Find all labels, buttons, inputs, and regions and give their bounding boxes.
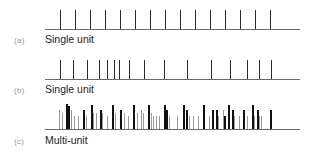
- spike: [247, 60, 248, 79]
- panel-label: Multi-unit: [45, 134, 88, 146]
- spike: [164, 60, 165, 79]
- spike: [247, 116, 248, 129]
- spike: [270, 10, 271, 29]
- spike: [133, 105, 135, 129]
- spike: [71, 110, 72, 129]
- spike: [86, 116, 87, 129]
- panel-tag: (c): [14, 137, 24, 146]
- spike: [187, 60, 188, 79]
- spike: [102, 113, 103, 129]
- spike: [143, 113, 144, 129]
- spike: [209, 116, 210, 129]
- spike: [259, 60, 260, 79]
- spike: [96, 113, 97, 129]
- spike: [255, 10, 256, 29]
- spike: [225, 10, 226, 29]
- spike: [177, 116, 178, 129]
- spike: [115, 113, 116, 129]
- spike: [166, 110, 168, 129]
- spike: [99, 60, 100, 79]
- spike: [105, 10, 106, 29]
- spike: [153, 116, 154, 129]
- spike: [112, 105, 114, 129]
- spike: [218, 116, 219, 129]
- spike: [78, 116, 79, 129]
- spike: [119, 60, 120, 79]
- spike: [93, 113, 94, 129]
- spike: [211, 60, 212, 79]
- spike: [74, 116, 75, 129]
- spike: [212, 110, 214, 129]
- spike: [203, 105, 205, 129]
- spike: [169, 116, 170, 129]
- spike: [271, 60, 272, 79]
- baseline-axis: [45, 29, 300, 30]
- spike: [124, 113, 125, 129]
- spike: [107, 116, 108, 129]
- spike: [243, 110, 245, 129]
- spike: [150, 10, 151, 29]
- spike: [228, 105, 230, 129]
- spike: [128, 116, 129, 129]
- baseline-axis: [45, 79, 300, 80]
- spike: [137, 113, 138, 129]
- spike: [230, 60, 231, 79]
- spike: [261, 116, 262, 129]
- spike: [239, 116, 240, 129]
- spike: [87, 60, 88, 79]
- spike: [68, 106, 70, 129]
- spike: [186, 110, 188, 129]
- spike: [120, 10, 121, 29]
- spike: [156, 116, 157, 129]
- spike: [75, 10, 76, 29]
- panel-tag: (b): [14, 86, 25, 95]
- spike: [224, 116, 226, 129]
- spike: [120, 110, 122, 129]
- spike: [210, 10, 211, 29]
- spike: [180, 10, 181, 29]
- spike: [107, 60, 108, 79]
- spike: [148, 105, 150, 129]
- spike: [254, 116, 255, 129]
- spike: [83, 110, 85, 129]
- spike: [62, 113, 63, 129]
- spike: [234, 116, 235, 129]
- spike: [60, 10, 61, 29]
- spike: [183, 105, 185, 129]
- baseline-axis: [45, 129, 300, 130]
- spike: [240, 10, 241, 29]
- spike: [73, 60, 74, 79]
- panel-label: Single unit: [45, 33, 94, 45]
- panel-label: Single unit: [45, 83, 94, 95]
- spike: [165, 10, 166, 29]
- spike: [198, 116, 199, 129]
- spike: [59, 110, 60, 129]
- spike: [135, 10, 136, 29]
- spike: [60, 60, 61, 79]
- spike: [114, 60, 115, 79]
- spike: [195, 10, 196, 29]
- panel-tag: (a): [14, 36, 25, 45]
- spike: [270, 110, 272, 129]
- spike: [193, 116, 194, 129]
- spike: [90, 10, 91, 29]
- spike: [159, 116, 160, 129]
- spike: [144, 60, 145, 79]
- spike: [189, 116, 190, 129]
- spike: [129, 60, 130, 79]
